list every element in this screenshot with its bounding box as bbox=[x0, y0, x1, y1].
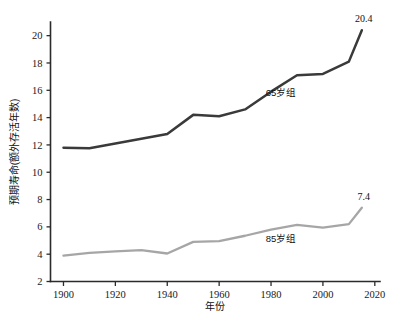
y-axis-tick-label: 4 bbox=[37, 249, 43, 260]
x-axis-tick-label: 1980 bbox=[261, 289, 282, 300]
y-axis-tick-label: 8 bbox=[37, 194, 42, 205]
y-axis-tick-label: 6 bbox=[37, 221, 42, 232]
x-axis-tick-label: 1960 bbox=[209, 289, 230, 300]
x-axis-tick-label: 1920 bbox=[105, 289, 126, 300]
annotation-85-group-end-value: 7.4 bbox=[358, 191, 371, 202]
x-axis-tick-label: 2020 bbox=[364, 289, 385, 300]
y-axis-title: 预期寿命(额外存活年数) bbox=[8, 99, 20, 206]
y-axis-tick-label: 12 bbox=[32, 140, 43, 151]
line-chart: 2468101214161820 19001920194019601980200… bbox=[0, 0, 399, 321]
chart-container: 2468101214161820 19001920194019601980200… bbox=[0, 0, 399, 321]
series-label-85-group: 85岁组 bbox=[266, 233, 297, 244]
y-axis-tick-label: 2 bbox=[37, 276, 42, 287]
x-axis-tick-label: 1900 bbox=[53, 289, 74, 300]
series-line-65-group bbox=[63, 30, 361, 148]
x-axis-tick-labels: 1900192019401960198020002020 bbox=[53, 289, 385, 300]
y-axis-tick-label: 20 bbox=[32, 30, 43, 41]
x-axis-tick-label: 1940 bbox=[157, 289, 178, 300]
y-axis-tick-label: 16 bbox=[32, 85, 43, 96]
y-axis-tick-labels: 2468101214161820 bbox=[32, 30, 43, 287]
y-axis-tick-label: 18 bbox=[32, 58, 43, 69]
y-axis-tick-label: 10 bbox=[32, 167, 43, 178]
series-label-65-group: 65岁组 bbox=[266, 87, 297, 98]
annotation-65-group-end-value: 20.4 bbox=[355, 13, 373, 24]
x-axis-title: 年份 bbox=[205, 300, 225, 312]
y-axis-tick-label: 14 bbox=[32, 112, 43, 123]
series-line-85-group bbox=[63, 208, 361, 256]
x-axis-tick-label: 2000 bbox=[312, 289, 333, 300]
chart-axes bbox=[51, 22, 381, 282]
